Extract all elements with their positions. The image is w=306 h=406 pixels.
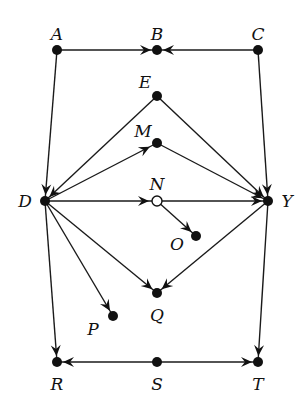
node-D bbox=[40, 196, 50, 206]
node-A bbox=[52, 45, 62, 55]
node-label-S: S bbox=[151, 374, 163, 394]
edge-C-Y bbox=[258, 50, 268, 201]
node-label-T: T bbox=[252, 374, 265, 394]
arrowhead-icon bbox=[100, 299, 110, 311]
node-label-E: E bbox=[138, 72, 152, 92]
node-S bbox=[152, 357, 162, 367]
edge-D-M bbox=[45, 143, 157, 201]
edge-D-P bbox=[45, 201, 113, 316]
node-label-N: N bbox=[149, 174, 166, 194]
node-label-Y: Y bbox=[281, 191, 294, 211]
node-label-B: B bbox=[150, 24, 164, 44]
node-E bbox=[152, 91, 162, 101]
edge-A-D bbox=[45, 50, 57, 201]
edge-D-Q bbox=[45, 201, 157, 293]
node-label-D: D bbox=[17, 191, 32, 211]
node-label-M: M bbox=[133, 121, 152, 141]
node-label-Q: Q bbox=[150, 305, 164, 325]
labels-layer: ABCEMDNYOQPRST bbox=[17, 24, 294, 394]
node-M bbox=[152, 138, 162, 148]
node-B bbox=[152, 45, 162, 55]
node-P bbox=[108, 311, 118, 321]
node-label-A: A bbox=[49, 24, 63, 44]
edge-Y-T bbox=[258, 201, 268, 362]
edge-E-Y bbox=[157, 96, 268, 201]
graph-diagram: ABCEMDNYOQPRST bbox=[0, 0, 306, 406]
node-C bbox=[253, 45, 263, 55]
node-Q bbox=[152, 288, 162, 298]
node-label-O: O bbox=[170, 234, 184, 254]
node-R bbox=[52, 357, 62, 367]
node-N bbox=[152, 196, 162, 206]
node-label-P: P bbox=[86, 319, 99, 339]
graph-canvas: ABCEMDNYOQPRST bbox=[0, 0, 306, 406]
edge-D-R bbox=[45, 201, 57, 362]
node-label-R: R bbox=[50, 374, 64, 394]
node-T bbox=[253, 357, 263, 367]
node-label-C: C bbox=[251, 24, 264, 44]
edge-M-Y bbox=[157, 143, 268, 201]
node-Y bbox=[263, 196, 273, 206]
node-O bbox=[191, 231, 201, 241]
edge-E-D bbox=[45, 96, 157, 201]
